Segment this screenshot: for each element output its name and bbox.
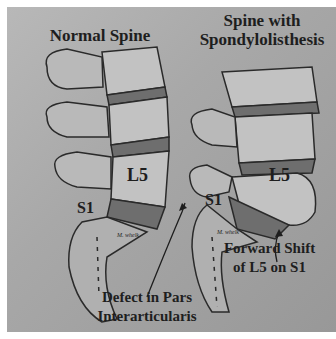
spondylo-l5-label: L5 <box>269 165 290 186</box>
defect-annotation-line1: Defect in Pars <box>77 289 217 306</box>
signature-right: M. whelk <box>217 229 239 235</box>
shift-annotation-line2: of L5 on S1 <box>207 259 332 276</box>
signature-left: M. whelk <box>117 232 139 238</box>
normal-s1-label: S1 <box>77 199 94 217</box>
normal-l5-label: L5 <box>127 165 148 186</box>
spondylo-s1-label: S1 <box>205 191 222 209</box>
normal-spine-drawing <box>46 47 169 322</box>
illustration-frame: Normal Spine Spine with Spondylolisthesi… <box>7 7 336 332</box>
normal-spine-title: Normal Spine <box>35 27 165 45</box>
spondylolisthesis-title-line1: Spine with <box>187 12 336 30</box>
defect-annotation-line2: Interarticularis <box>77 308 217 325</box>
shift-annotation-line1: Forward Shift <box>207 240 332 257</box>
spondylolisthesis-title-line2: Spondylolisthesis <box>187 31 336 49</box>
